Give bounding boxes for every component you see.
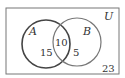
venn-diagram: U A B 15 10 5 23 <box>0 0 125 78</box>
set-b-label: B <box>82 25 91 38</box>
b-only-count: 5 <box>73 47 79 58</box>
set-a-label: A <box>28 25 37 38</box>
intersection-count: 10 <box>55 37 68 48</box>
outside-count: 23 <box>102 63 115 74</box>
universe-label: U <box>104 10 114 23</box>
a-only-count: 15 <box>40 47 53 58</box>
